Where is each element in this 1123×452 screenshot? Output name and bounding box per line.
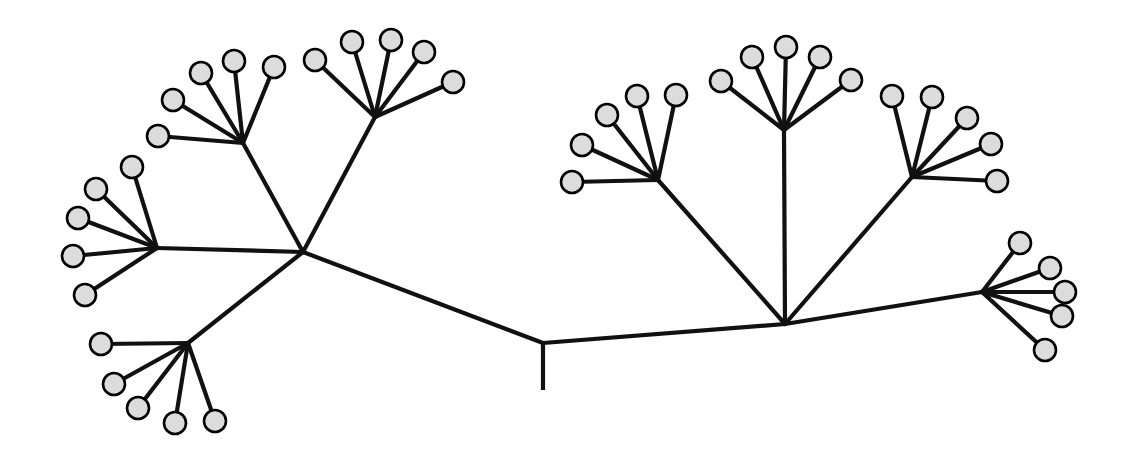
leaf-node-L24 (626, 85, 648, 107)
leaf-node-L5 (263, 56, 285, 78)
leaf-node-L6 (304, 49, 326, 71)
tree-canvas (0, 0, 1123, 452)
leaf-node-L16 (90, 333, 112, 355)
internal-branch-root-to-left_hub (303, 252, 543, 343)
leaf-branches (73, 40, 1065, 423)
leaf-node-L3 (190, 62, 212, 84)
leaf-node-L21 (561, 171, 583, 193)
leaf-branch-L20 (188, 343, 215, 421)
internal-branch-right_hub-to-right_right_hub (785, 177, 912, 324)
leaf-node-L9 (413, 41, 435, 63)
leaf-branch-L5 (243, 67, 274, 143)
leaf-node-L37 (1039, 257, 1061, 279)
leaf-node-L28 (775, 36, 797, 58)
internal-branch-left_hub-to-left_upper_hub (243, 143, 303, 252)
leaf-branch-L13 (78, 218, 157, 248)
leaf-branch-L28 (784, 47, 786, 130)
leaf-node-L14 (62, 245, 84, 267)
internal-branch-left_hub-to-left_lower_hub (188, 252, 303, 343)
leaf-node-L20 (204, 410, 226, 432)
leaf-node-L19 (164, 412, 186, 434)
leaf-node-L23 (596, 104, 618, 126)
leaf-node-L18 (127, 397, 149, 419)
leaf-branch-L35 (912, 177, 997, 181)
leaf-node-L8 (380, 29, 402, 51)
leaf-node-L39 (1051, 305, 1073, 327)
leaf-branch-L34 (912, 144, 991, 177)
leaf-node-L35 (986, 170, 1008, 192)
leaf-branch-L31 (892, 96, 912, 177)
leaf-node-L15 (74, 284, 96, 306)
leaf-node-L26 (710, 70, 732, 92)
leaf-node-L32 (921, 86, 943, 108)
leaf-node-L36 (1009, 232, 1031, 254)
internal-branch-right_hub-to-right_top_hub (784, 130, 785, 324)
leaf-branch-L25 (658, 95, 676, 180)
leaf-branch-L16 (101, 343, 188, 344)
leaf-node-L13 (67, 207, 89, 229)
leaf-node-L29 (809, 46, 831, 68)
leaf-node-L10 (442, 71, 464, 93)
leaf-node-L30 (840, 69, 862, 91)
leaf-node-L33 (956, 107, 978, 129)
leaf-node-L1 (147, 125, 169, 147)
leaf-node-L11 (121, 156, 143, 178)
internal-branch-left_hub-to-left_mid_hub (157, 248, 303, 252)
leaf-node-L40 (1034, 339, 1056, 361)
leaf-node-L4 (223, 50, 245, 72)
leaf-node-L27 (741, 46, 763, 68)
leaf-node-L7 (341, 31, 363, 53)
leaf-node-L31 (881, 85, 903, 107)
leaf-node-L25 (665, 84, 687, 106)
internal-branch-right_hub-to-far_right_hub (785, 292, 982, 324)
internal-branch-root-to-right_hub (543, 324, 785, 343)
internal-branch-right_hub-to-right_left_hub (658, 180, 785, 324)
leaf-branch-L17 (114, 343, 188, 384)
leaf-node-L22 (571, 134, 593, 156)
leaf-nodes (62, 29, 1076, 434)
leaf-branch-L21 (572, 180, 658, 182)
internal-branches (157, 117, 982, 343)
internal-branch-left_hub-to-left_upper_right_hub (303, 117, 375, 252)
leaf-node-L2 (162, 89, 184, 111)
phylogenetic-tree-figure (0, 0, 1123, 452)
leaf-node-L38 (1054, 281, 1076, 303)
leaf-node-L12 (85, 178, 107, 200)
leaf-node-L34 (980, 133, 1002, 155)
leaf-node-L17 (103, 373, 125, 395)
